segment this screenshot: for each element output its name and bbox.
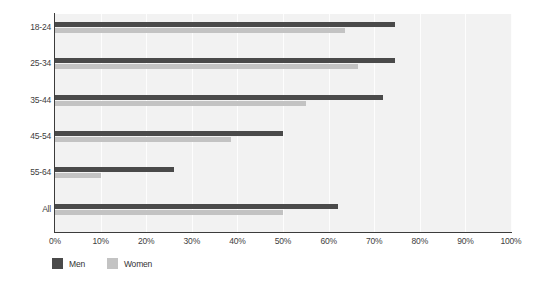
y-tick-label-all: All [4,204,51,214]
x-tick-label-70: 70% [366,236,382,246]
bar-men-45-54 [55,131,283,136]
x-tick-label-40: 40% [229,236,245,246]
chart-legend: MenWomen [52,258,152,269]
x-tick-label-0: 0% [49,236,61,246]
y-tick-label-55-64: 55-64 [4,167,51,177]
y-tick-label-18-24: 18-24 [4,22,51,32]
bar-men-all [55,204,338,209]
x-tick-label-20: 20% [138,236,154,246]
bar-women-55-64 [55,173,101,178]
bar-group [55,159,511,195]
x-axis-line [55,232,512,233]
legend-label-men: Men [69,259,85,269]
legend-swatch-men [52,258,63,269]
legend-swatch-women [107,258,118,269]
bar-men-25-34 [55,58,395,63]
x-axis-tick-labels: 0%10%20%30%40%50%60%70%80%90%100% [55,236,511,250]
legend-item-women[interactable]: Women [107,258,152,269]
bar-women-all [55,210,283,215]
x-tick-label-30: 30% [184,236,200,246]
y-axis-line [54,13,55,233]
x-tick-label-60: 60% [320,236,336,246]
x-tick-label-80: 80% [412,236,428,246]
gridline [511,14,512,232]
bar-women-18-24 [55,28,345,33]
plot-area [55,14,511,232]
bar-women-25-34 [55,64,358,69]
bar-group [55,196,511,232]
y-tick-label-25-34: 25-34 [4,58,51,68]
x-tick-label-10: 10% [92,236,108,246]
bar-men-35-44 [55,95,383,100]
bar-women-45-54 [55,137,231,142]
y-axis-tick-labels: 18-2425-3435-4445-5455-64All [0,14,51,232]
legend-label-women: Women [124,259,152,269]
legend-item-men[interactable]: Men [52,258,85,269]
bar-men-55-64 [55,167,174,172]
bar-group [55,14,511,50]
x-tick-label-50: 50% [275,236,291,246]
y-tick-label-35-44: 35-44 [4,95,51,105]
bar-men-18-24 [55,22,395,27]
y-tick-label-45-54: 45-54 [4,131,51,141]
bar-group [55,123,511,159]
x-tick-label-90: 90% [457,236,473,246]
bar-group [55,87,511,123]
bar-group [55,50,511,86]
bar-women-35-44 [55,101,306,106]
bar-chart: 18-2425-3435-4445-5455-64All 0%10%20%30%… [0,0,535,283]
x-tick-label-100: 100% [501,236,522,246]
